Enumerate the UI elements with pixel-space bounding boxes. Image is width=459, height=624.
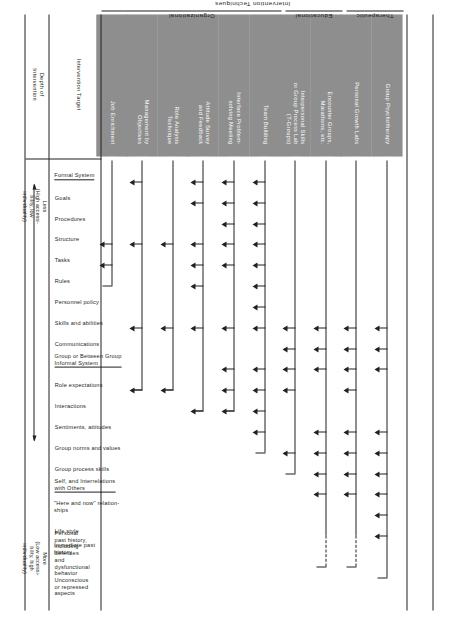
- technique-label: Team Building: [249, 20, 280, 144]
- technique-axis-endcap: [102, 285, 112, 286]
- target-item-label: Tasks: [54, 256, 69, 263]
- target-arrow: [345, 452, 356, 453]
- target-arrow: [223, 327, 234, 328]
- target-arrow: [254, 202, 265, 203]
- frame-rule: [48, 14, 49, 610]
- target-arrow: [254, 410, 265, 411]
- target-group-heading: Formal System: [54, 172, 94, 180]
- target-arrow: [376, 452, 387, 453]
- target-arrow: [315, 431, 326, 432]
- figure-frame: Group PsychotherapyPersonal Growth LabsE…: [25, 14, 433, 610]
- target-item-label: Goals: [54, 194, 70, 201]
- technique-axis-dashed-tail: [325, 535, 326, 566]
- technique-axis-line: [111, 160, 112, 285]
- target-arrow: [254, 223, 265, 224]
- group-label-educational: Educational: [285, 13, 342, 20]
- intervention-techniques-title: Intervention Techniques: [101, 1, 403, 8]
- technique-label: Attitude Survey and Feedback: [187, 20, 218, 144]
- target-arrow: [192, 327, 203, 328]
- group-label-therapeutic: Therapeutic: [346, 13, 403, 20]
- target-item-label: Role expectations: [54, 381, 102, 388]
- target-arrow: [192, 181, 203, 182]
- target-arrow: [315, 473, 326, 474]
- target-arrow: [376, 368, 387, 369]
- technique-axis-endcap: [346, 566, 356, 567]
- target-arrow: [284, 368, 295, 369]
- technique-row: Personal Growth Labs: [338, 14, 372, 610]
- target-arrow: [315, 348, 326, 349]
- target-arrow: [315, 493, 326, 494]
- target-arrow: [345, 327, 356, 328]
- target-item-label: Procedures: [54, 215, 85, 222]
- technique-axis-line: [294, 160, 295, 473]
- target-arrow: [345, 348, 356, 349]
- depth-of-intervention-stub-title: Depth of Intervention: [30, 20, 44, 148]
- target-arrow: [345, 473, 356, 474]
- depth-of-intervention-band: Depth of InterventionLess (High accessi-…: [25, 14, 49, 610]
- target-arrow: [345, 493, 356, 494]
- technique-row: Interface Problem- solving Meeting: [216, 14, 250, 610]
- technique-label: Management by Objectives: [126, 20, 157, 144]
- technique-group-therapeutic: Therapeutic: [346, 14, 403, 15]
- target-arrow: [131, 327, 142, 328]
- target-arrow: [223, 389, 234, 390]
- target-arrow: [254, 431, 265, 432]
- target-arrow: [376, 535, 387, 536]
- target-item-label: Structure: [54, 236, 79, 243]
- target-arrow: [192, 264, 203, 265]
- target-arrow: [192, 285, 203, 286]
- technique-axis-dashed-tail: [355, 535, 356, 566]
- target-arrow: [223, 223, 234, 224]
- rotated-figure-canvas: Group PsychotherapyPersonal Growth LabsE…: [0, 0, 459, 624]
- technique-tag[interactable]: Team Building: [249, 14, 280, 156]
- frame-rule: [406, 14, 407, 610]
- technique-axis-line: [233, 160, 234, 410]
- technique-group-educational: Educational: [285, 14, 342, 15]
- target-item-label: Group norms and values: [54, 444, 120, 451]
- technique-axis-line: [141, 160, 142, 389]
- target-arrow: [254, 243, 265, 244]
- technique-axis-endcap: [377, 577, 387, 578]
- figure-page: FIGURE 16-1 Group PsychotherapyPersonal …: [0, 0, 459, 624]
- target-arrow: [162, 389, 173, 390]
- target-arrow: [315, 452, 326, 453]
- technique-tag[interactable]: Interpersonal Skills or Group Process La…: [279, 14, 310, 156]
- target-arrow: [376, 348, 387, 349]
- technique-label: Group Psychotherapy: [371, 20, 402, 144]
- technique-tag[interactable]: Attitude Survey and Feedback: [187, 14, 218, 156]
- technique-tag[interactable]: Group Psychotherapy: [371, 14, 402, 156]
- group-bracket-line: [101, 10, 281, 11]
- technique-tag[interactable]: Management by Objectives: [126, 14, 157, 156]
- target-arrow: [254, 285, 265, 286]
- technique-tag[interactable]: Personal Growth Labs: [340, 14, 371, 156]
- frame-rule: [24, 14, 25, 610]
- technique-tag[interactable]: Interface Problem- solving Meeting: [218, 14, 249, 156]
- target-item-label: Unconscious or repressed aspects: [54, 576, 88, 596]
- target-arrow: [376, 473, 387, 474]
- target-arrow: [284, 389, 295, 390]
- target-arrow: [284, 348, 295, 349]
- frame-rule: [100, 14, 101, 610]
- technique-tag[interactable]: Encounter Groups, Marathons, etc.: [310, 14, 341, 156]
- target-item-label: Rules: [54, 277, 69, 284]
- technique-axis-endcap: [285, 473, 295, 474]
- chart-body: Group PsychotherapyPersonal Growth LabsE…: [101, 14, 407, 610]
- technique-row: Interpersonal Skills or Group Process La…: [277, 14, 311, 610]
- target-arrow: [131, 243, 142, 244]
- target-arrow: [376, 493, 387, 494]
- target-arrow: [223, 264, 234, 265]
- target-arrow: [345, 389, 356, 390]
- intervention-target-stub-title: Intervention Target: [74, 20, 81, 148]
- group-bracket-line: [346, 10, 403, 11]
- target-group-heading: Group or Between Group Informal System: [54, 352, 121, 367]
- target-arrow: [315, 368, 326, 369]
- target-arrow: [254, 389, 265, 390]
- technique-axis-endcap: [255, 452, 265, 453]
- target-item-label: Personnel policy: [54, 298, 98, 305]
- target-arrow: [254, 306, 265, 307]
- technique-tag[interactable]: Role Analysis Technique: [157, 14, 188, 156]
- technique-axis-endcap: [316, 566, 326, 567]
- target-arrow: [223, 410, 234, 411]
- target-arrow: [254, 327, 265, 328]
- target-arrow: [345, 368, 356, 369]
